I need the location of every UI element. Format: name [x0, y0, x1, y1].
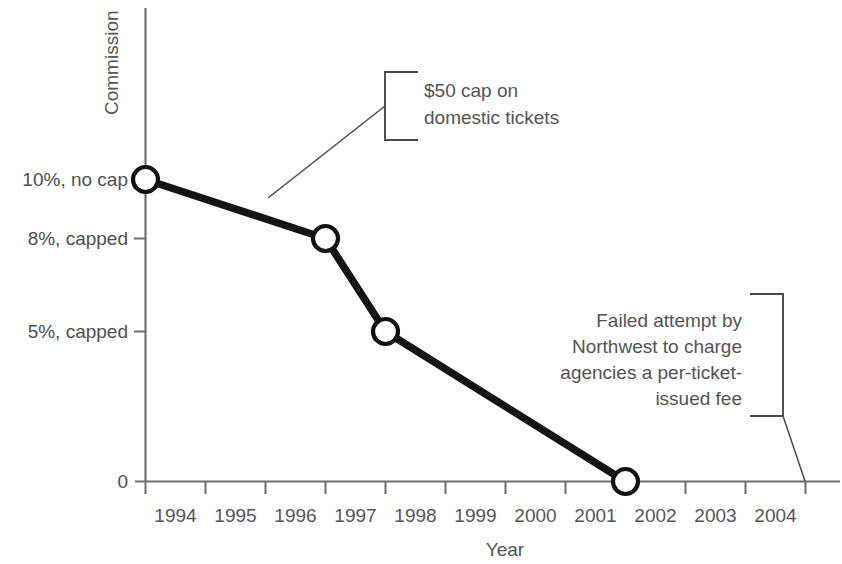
annotation-northwest-callout: Failed attempt by Northwest to charge ag… [560, 294, 805, 481]
northwest-callout-line-2: Northwest to charge [572, 336, 742, 357]
y-tick-marks [134, 180, 146, 332]
y-tick-label-5pct: 5%, capped [28, 321, 128, 342]
northwest-callout-bracket [750, 294, 783, 416]
annotation-cap-callout: $50 cap on domestic tickets [268, 72, 559, 198]
data-series-group [133, 167, 638, 494]
northwest-callout-leader-line [783, 416, 805, 481]
x-tick-label-1997: 1997 [334, 505, 376, 526]
x-tick-label-1996: 1996 [274, 505, 316, 526]
x-axis-title: Year [486, 539, 525, 560]
x-tick-label-2004: 2004 [754, 505, 797, 526]
y-tick-label-10pct: 10%, no cap [22, 169, 128, 190]
y-axis-title: Commission [101, 10, 122, 115]
data-point-marker [613, 469, 638, 494]
chart-canvas: 10%, no cap 8%, capped 5%, capped 0 1994… [0, 0, 842, 564]
northwest-callout-line-4: issued fee [655, 388, 742, 409]
northwest-callout-line-1: Failed attempt by [596, 310, 742, 331]
x-tick-label-2001: 2001 [574, 505, 616, 526]
commission-line-chart: 10%, no cap 8%, capped 5%, capped 0 1994… [0, 0, 842, 564]
data-point-marker [313, 226, 338, 251]
cap-callout-line-1: $50 cap on [424, 80, 518, 101]
x-tick-label-1995: 1995 [214, 505, 256, 526]
x-tick-label-2002: 2002 [634, 505, 676, 526]
data-point-marker [133, 167, 158, 192]
cap-callout-leader-line [268, 106, 385, 198]
x-tick-marks [146, 481, 806, 494]
cap-callout-bracket [385, 72, 418, 140]
x-tick-label-1998: 1998 [394, 505, 436, 526]
x-tick-label-2000: 2000 [514, 505, 556, 526]
data-point-marker [373, 319, 398, 344]
x-tick-label-2003: 2003 [694, 505, 736, 526]
y-tick-labels: 10%, no cap 8%, capped 5%, capped 0 [22, 169, 128, 492]
x-tick-labels: 1994 1995 1996 1997 1998 1999 2000 2001 … [154, 505, 797, 526]
northwest-callout-line-3: agencies a per-ticket- [560, 362, 742, 383]
x-tick-label-1999: 1999 [454, 505, 496, 526]
x-tick-label-1994: 1994 [154, 505, 197, 526]
y-tick-label-8pct: 8%, capped [28, 228, 128, 249]
cap-callout-line-2: domestic tickets [424, 107, 559, 128]
y-tick-label-zero: 0 [117, 471, 128, 492]
